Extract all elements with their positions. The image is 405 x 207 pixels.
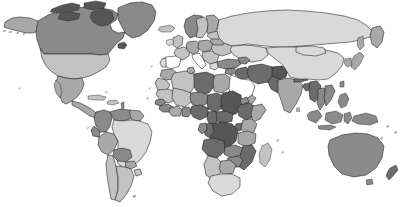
island-taiwan xyxy=(340,81,344,87)
island-tasmania xyxy=(366,179,373,185)
world-map-svg xyxy=(0,0,405,207)
world-choropleth-map xyxy=(0,0,405,207)
